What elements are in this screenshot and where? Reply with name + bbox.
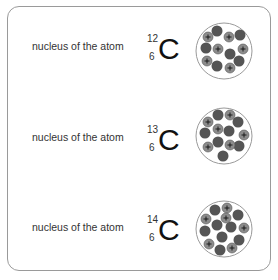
nucleus-label: nucleus of the atom — [32, 40, 124, 52]
nucleus-label: nucleus of the atom — [32, 221, 124, 233]
mass-number: 12 — [147, 33, 158, 44]
atomic-number: 6 — [149, 51, 155, 62]
element-symbol: C — [158, 125, 180, 155]
isotope-row-c14: nucleus of the atom 14 6 C — [0, 200, 278, 270]
nucleus-icon — [193, 198, 255, 260]
nucleus-label: nucleus of the atom — [32, 131, 124, 143]
atomic-number: 6 — [149, 142, 155, 153]
nucleus-icon — [193, 105, 255, 167]
isotope-row-c13: nucleus of the atom 13 6 C — [0, 111, 278, 181]
element-symbol: C — [158, 34, 180, 64]
isotope-row-c12: nucleus of the atom 12 6 C — [0, 20, 278, 90]
atomic-number: 6 — [149, 232, 155, 243]
element-symbol: C — [158, 215, 180, 245]
mass-number: 14 — [147, 214, 158, 225]
mass-number: 13 — [147, 124, 158, 135]
nucleus-icon — [193, 20, 255, 82]
